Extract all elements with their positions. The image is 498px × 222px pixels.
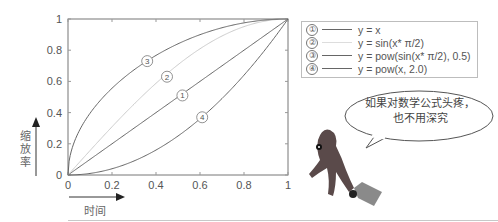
x-axis-arrow-icon <box>116 193 125 201</box>
x-tick-label: 0.6 <box>192 179 207 191</box>
legend-label: y = pow(x, 2.0) <box>358 63 427 75</box>
legend-item: ④ y = pow(x, 2.0) <box>306 62 427 75</box>
legend-line-swatch <box>322 55 352 56</box>
y-tick-label: 0.6 <box>47 75 62 87</box>
curve-label: 4 <box>200 113 205 122</box>
x-tick-label: 0 <box>65 179 71 191</box>
legend-number-badge: ② <box>306 37 318 49</box>
legend-line-swatch <box>322 42 352 43</box>
bottom-divider <box>68 220 498 221</box>
legend: ① y = x ② y = sin(x* π/2) ③ y = pow(sin(… <box>301 21 478 78</box>
legend-label: y = sin(x* π/2) <box>358 37 424 49</box>
x-tick-label: 1 <box>285 179 291 191</box>
legend-number-badge: ④ <box>306 63 318 75</box>
curve-annotations: 3214 <box>142 56 208 123</box>
y-tick-label: 0.2 <box>47 138 62 150</box>
x-tick-label: 0.4 <box>148 179 163 191</box>
legend-item: ③ y = pow(sin(x* π/2), 0.5) <box>306 49 471 62</box>
curve-label: 2 <box>165 73 170 82</box>
speech-bubble-line: 也不用深究 <box>355 111 485 126</box>
speech-bubble-line: 如果对数学公式头疼， <box>355 96 485 111</box>
y-tick-label: 0.4 <box>47 107 62 119</box>
x-tick-label: 0.2 <box>104 179 119 191</box>
y-tick-label: 0 <box>56 169 62 181</box>
legend-item: ① y = x <box>306 23 380 36</box>
legend-label: y = x <box>358 24 380 36</box>
y-tick-label: 0.8 <box>47 44 62 56</box>
legend-number-badge: ③ <box>306 50 318 62</box>
y-axis-label-char: 缩 <box>19 130 31 143</box>
legend-item: ② y = sin(x* π/2) <box>306 36 424 49</box>
curve-label: 1 <box>180 91 185 100</box>
legend-line-swatch <box>322 68 352 69</box>
y-axis-arrow-icon <box>32 117 40 127</box>
curve-label: 3 <box>145 57 150 66</box>
y-axis-label: 缩 放 率 <box>19 130 31 169</box>
y-axis-label-char: 放 <box>19 143 31 156</box>
legend-label: y = pow(sin(x* π/2), 0.5) <box>358 50 471 62</box>
speech-bubble-text: 如果对数学公式头疼， 也不用深究 <box>355 96 485 126</box>
y-tick-label: 1 <box>56 13 62 25</box>
x-axis-label: 时间 <box>84 202 106 218</box>
legend-number-badge: ① <box>306 24 318 36</box>
x-tick-label: 0.8 <box>236 179 251 191</box>
legend-line-swatch <box>322 29 352 30</box>
y-axis-label-char: 率 <box>19 156 31 169</box>
